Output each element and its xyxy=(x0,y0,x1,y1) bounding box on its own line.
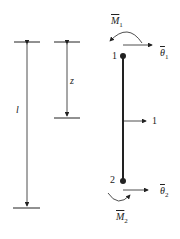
label-node-2: 2 xyxy=(110,175,115,185)
beam xyxy=(120,53,126,184)
label-l: l xyxy=(16,105,19,115)
moment-2-arc xyxy=(108,193,130,201)
label-rotation-2: θ2 xyxy=(160,186,168,200)
node-2 xyxy=(120,178,126,184)
label-unit-load: 1 xyxy=(152,116,157,126)
dimension-z xyxy=(54,42,80,118)
label-moment-1: M1 xyxy=(111,16,123,30)
label-node-1: 1 xyxy=(112,51,117,61)
moment-1-arc xyxy=(110,32,142,43)
node-1 xyxy=(120,53,126,59)
label-rotation-1: θ1 xyxy=(160,48,168,62)
label-moment-2: M2 xyxy=(116,212,128,226)
dimension-l xyxy=(13,42,40,208)
label-z: z xyxy=(70,76,74,86)
